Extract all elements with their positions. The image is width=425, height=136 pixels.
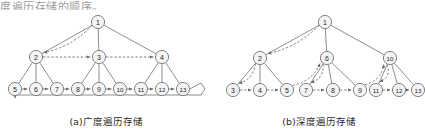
tree-edge [392, 65, 397, 84]
graph-node-9: 9 [353, 83, 366, 96]
node-label: 8 [76, 86, 80, 93]
node-label: 11 [138, 86, 145, 93]
depth-first-svg: 12610345789111213 [213, 0, 425, 112]
node-label: 7 [55, 86, 59, 93]
tree-edge [40, 63, 53, 83]
graph-node-6: 6 [29, 82, 42, 95]
node-label: 5 [285, 87, 289, 94]
graph-node-1: 1 [91, 15, 104, 28]
tree-edge [328, 65, 331, 83]
nodes: 12345678910111213 [8, 15, 189, 95]
node-label: 2 [258, 55, 262, 62]
curved-traversal-arrow [365, 65, 384, 85]
node-label: 6 [325, 55, 329, 62]
graph-node-8: 8 [326, 83, 339, 96]
graph-node-2: 2 [29, 50, 42, 63]
graph-node-1: 1 [318, 15, 331, 28]
tree-edge [310, 64, 323, 84]
graph-node-11: 11 [369, 83, 382, 96]
tree-edge [265, 63, 283, 84]
tree-edge [19, 63, 32, 83]
caption-breadth-first: (a)广度遍历存储 [0, 114, 212, 128]
tree-edge [395, 63, 414, 84]
caption-depth-first: (b)深度遍历存储 [213, 114, 425, 128]
graph-node-11: 11 [134, 82, 147, 95]
graph-node-6: 6 [320, 51, 333, 64]
graph-node-10: 10 [383, 51, 396, 64]
node-label: 9 [97, 86, 101, 93]
diagram-depth-first: 12610345789111213 (b)深度遍历存储 [213, 0, 425, 136]
node-label: 9 [358, 87, 362, 94]
node-label: 10 [387, 55, 394, 62]
node-label: 3 [231, 87, 235, 94]
diagram-breadth-first: 12345678910111213 (a)广度遍历存储 [0, 0, 212, 136]
tree-edge [331, 25, 384, 54]
node-label: 13 [415, 87, 422, 94]
graph-node-4: 4 [155, 50, 168, 63]
graph-node-12: 12 [392, 83, 405, 96]
node-label: 7 [304, 87, 308, 94]
node-label: 5 [13, 86, 17, 93]
tree-edge [166, 63, 179, 83]
graph-node-2: 2 [253, 51, 266, 64]
node-label: 11 [373, 87, 380, 94]
graph-node-4: 4 [253, 83, 266, 96]
node-label: 10 [117, 86, 124, 93]
graph-node-7: 7 [299, 83, 312, 96]
breadth-first-svg: 12345678910111213 [0, 0, 212, 112]
node-label: 4 [258, 87, 262, 94]
graph-node-3: 3 [92, 50, 105, 63]
tree-edge [82, 63, 95, 83]
tree-edge [325, 29, 326, 51]
node-label: 13 [180, 86, 187, 93]
tree-edge [103, 63, 116, 83]
node-label: 1 [96, 19, 100, 26]
tree-edge [42, 25, 92, 53]
node-label: 6 [34, 86, 38, 93]
tree-edge [332, 63, 355, 85]
tree-edge [98, 29, 99, 50]
tree-edge [266, 25, 319, 54]
graph-node-13: 13 [176, 82, 189, 95]
tree-edge [104, 25, 156, 53]
nodes: 12610345789111213 [226, 15, 424, 96]
node-label: 1 [323, 19, 327, 26]
node-label: 2 [34, 54, 38, 61]
node-label: 3 [97, 54, 101, 61]
graph-node-3: 3 [226, 83, 239, 96]
graph-node-8: 8 [71, 82, 84, 95]
graph-node-10: 10 [113, 82, 126, 95]
node-label: 4 [160, 54, 164, 61]
graph-node-5: 5 [8, 82, 21, 95]
graph-node-5: 5 [280, 83, 293, 96]
graph-node-9: 9 [92, 82, 105, 95]
tree-edge [145, 63, 158, 83]
graph-node-12: 12 [155, 82, 168, 95]
tree-edge [238, 63, 256, 84]
node-label: 8 [331, 87, 335, 94]
graph-node-13: 13 [411, 83, 424, 96]
node-label: 12 [396, 87, 403, 94]
graph-node-7: 7 [50, 82, 63, 95]
node-label: 12 [159, 86, 166, 93]
